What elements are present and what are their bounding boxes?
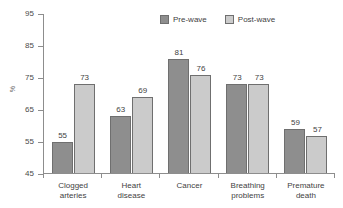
- x-axis-line: [43, 173, 335, 174]
- x-category-label-line: Clogged: [41, 181, 105, 191]
- plot-area: 55736369817673735957: [44, 14, 335, 174]
- bar-post[interactable]: [190, 75, 211, 174]
- x-category-label-line: Premature: [274, 181, 338, 191]
- y-tick-label: 75: [12, 74, 34, 82]
- x-tick-mark: [276, 173, 277, 178]
- x-category-label-line: disease: [99, 191, 163, 201]
- bar-post[interactable]: [74, 84, 95, 174]
- bar-post[interactable]: [306, 136, 327, 174]
- x-category-label-line: Cancer: [158, 181, 222, 191]
- y-axis-label: %: [6, 83, 20, 95]
- x-tick-mark: [43, 173, 44, 178]
- legend-label-post-wave: Post-wave: [238, 16, 275, 24]
- chart-legend: Pre-wave Post-wave: [160, 15, 275, 24]
- legend-item-pre-wave[interactable]: Pre-wave: [160, 15, 207, 24]
- x-category-label-line: arteries: [41, 191, 105, 201]
- bar-pre[interactable]: [226, 84, 247, 174]
- x-category-label: Cloggedarteries: [41, 181, 105, 200]
- x-tick-mark: [218, 173, 219, 178]
- y-tick-label: 65: [12, 106, 34, 114]
- bar-group: 5957: [284, 14, 327, 174]
- bar-post[interactable]: [132, 97, 153, 174]
- bar-value-label: 76: [187, 65, 215, 73]
- x-category-label-line: problems: [216, 191, 280, 201]
- bar-pre[interactable]: [52, 142, 73, 174]
- bar-post[interactable]: [248, 84, 269, 174]
- bar-value-label: 81: [165, 49, 193, 57]
- x-category-label-line: Heart: [99, 181, 163, 191]
- bar-value-label: 73: [71, 74, 99, 82]
- bar-group: 8176: [168, 14, 211, 174]
- bar-value-label: 57: [303, 126, 331, 134]
- y-tick-label: 95: [12, 10, 34, 18]
- y-tick-label: 85: [12, 42, 34, 50]
- legend-item-post-wave[interactable]: Post-wave: [225, 15, 275, 24]
- bar-pre[interactable]: [284, 129, 305, 174]
- bar-pre[interactable]: [110, 116, 131, 174]
- legend-swatch-icon-post-wave: [225, 15, 234, 24]
- grouped-bar-chart: % 455565758595 55736369817673735957 Clog…: [0, 0, 343, 208]
- bar-group: 6369: [110, 14, 153, 174]
- y-tick-label: 45: [12, 170, 34, 178]
- x-category-label-line: death: [274, 191, 338, 201]
- x-category-label: Prematuredeath: [274, 181, 338, 200]
- x-category-label: Breathingproblems: [216, 181, 280, 200]
- x-tick-mark: [159, 173, 160, 178]
- x-tick-mark: [334, 173, 335, 178]
- bar-value-label: 63: [107, 106, 135, 114]
- x-category-label: Heartdisease: [99, 181, 163, 200]
- x-tick-mark: [101, 173, 102, 178]
- bar-group: 5573: [52, 14, 95, 174]
- legend-swatch-icon-pre-wave: [160, 15, 169, 24]
- x-category-label-line: Breathing: [216, 181, 280, 191]
- legend-label-pre-wave: Pre-wave: [173, 16, 207, 24]
- y-tick-label: 55: [12, 138, 34, 146]
- bar-group: 7373: [226, 14, 269, 174]
- x-category-label: Cancer: [158, 181, 222, 191]
- bar-value-label: 55: [49, 132, 77, 140]
- bar-pre[interactable]: [168, 59, 189, 174]
- bar-value-label: 73: [245, 74, 273, 82]
- bar-value-label: 69: [129, 87, 157, 95]
